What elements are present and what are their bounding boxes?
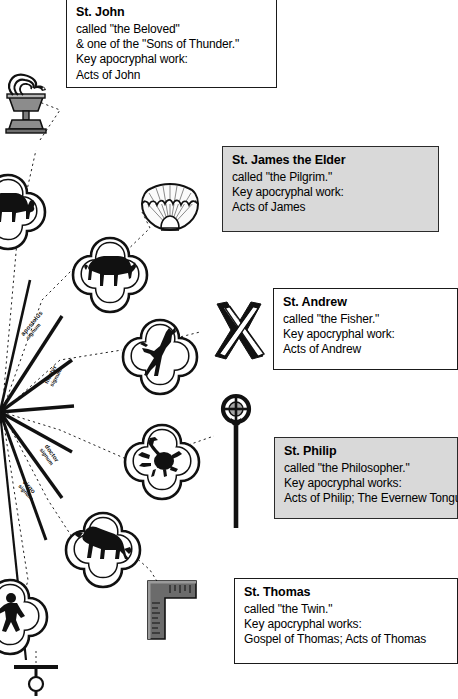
info-card-john[interactable]: St. John called "the Beloved" & one of t… [66,0,277,88]
tau-staff-icon [14,651,58,699]
card-line: Key apocryphal work: [283,327,448,342]
card-line: Key apocryphal work: [76,52,267,67]
medallion-virgo [0,580,47,654]
cross-staff-icon [223,396,249,528]
card-line: called "the Pilgrim." [232,170,429,185]
card-line: Gospel of Thomas; Acts of Thomas [244,632,448,647]
card-line: Key apocryphal works: [244,617,448,632]
card-line: called "the Fisher." [283,312,448,327]
card-line: called "the Beloved" [76,22,267,37]
saltire-cross-icon [215,302,264,359]
card-title: St. Andrew [283,295,448,311]
card-line: Acts of Andrew [283,342,448,357]
card-line: called "the Twin." [244,602,448,617]
card-title: St. Philip [284,444,448,460]
card-title: St. James the Elder [232,153,429,169]
carpenters-square-icon [148,581,196,639]
card-line: Acts of John [76,68,267,83]
chalice-with-serpent-icon [6,75,46,133]
diagram-canvas: apostolus signum martyr signum doctor si… [0,0,458,699]
card-line: & one of the "Sons of Thunder." [76,37,267,52]
info-card-andrew[interactable]: St. Andrew called "the Fisher." Key apoc… [273,288,458,370]
scallop-shell-icon [142,184,198,230]
card-line: called "the Philosopher." [284,461,448,476]
card-line: Acts of Philip; The Evernew Tongue [284,491,448,506]
card-line: Acts of James [232,200,429,215]
medallion-aries [0,175,45,249]
info-card-james-the-elder[interactable]: St. James the Elder called "the Pilgrim.… [222,146,439,232]
card-title: St. John [76,5,267,21]
card-line: Key apocryphal work: [232,185,429,200]
medallion-leo [66,513,140,587]
card-line: Key apocryphal works: [284,476,448,491]
info-card-thomas[interactable]: St. Thomas called "the Twin." Key apocry… [234,578,458,664]
medallion-scorpio [125,425,199,499]
medallion-capricorn [123,320,197,394]
card-title: St. Thomas [244,585,448,601]
info-card-philip[interactable]: St. Philip called "the Philosopher." Key… [274,437,458,519]
medallion-taurus [73,238,147,312]
